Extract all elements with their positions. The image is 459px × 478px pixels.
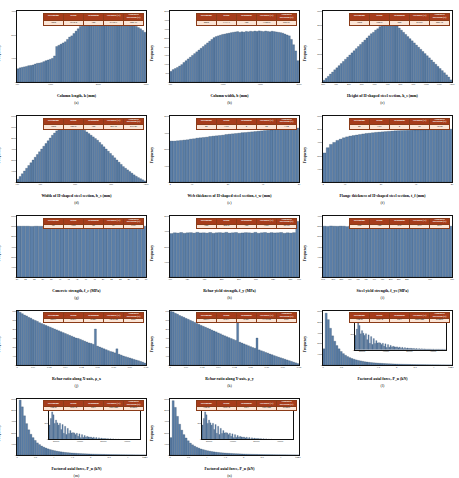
y-tick-label: 1000: [11, 265, 16, 268]
table-header-cell: Mean: [370, 119, 390, 124]
x-tick-label: 48: [136, 278, 139, 281]
table-header-cell: Variance (V): [410, 219, 430, 224]
table-value-cell: 916: [410, 225, 430, 228]
x-tick-label: 0: [16, 366, 17, 369]
x-tick-label: 0.02: [200, 366, 204, 369]
table-value-cell: 4: [390, 125, 410, 129]
histogram-panel-b: FrequencyMaximumMeanMinimumVariance (V)S…: [153, 0, 306, 105]
table-value-row: 5030.020275.23: [44, 225, 143, 228]
x-tick-label: 50: [145, 278, 148, 281]
y-tick-label: 4000: [164, 409, 169, 412]
y-tick-label: 0: [321, 81, 322, 84]
table-value-cell: 4: [237, 125, 257, 129]
inset-histogram-bars: [355, 318, 446, 349]
table-header-cell: Maximum: [44, 313, 64, 318]
table-value-cell: 7987440: [257, 407, 277, 410]
inset-x-tick-label: 10000: [230, 440, 236, 443]
table-value-cell: 0.03: [237, 407, 257, 410]
table-header-cell: Standard deviation (S): [277, 313, 296, 318]
y-tick-label: 200: [165, 345, 169, 348]
x-tick-label: 1000: [424, 83, 429, 86]
table-header-cell: Maximum: [197, 401, 217, 406]
table-value-cell: 2744.8: [124, 407, 143, 410]
x-axis-label: Rebar ratio along X-axis, ρ_x: [0, 377, 153, 381]
table-header-cell: Maximum: [197, 313, 217, 318]
y-tick-label: 5000: [11, 225, 16, 228]
x-tick-label: 20: [380, 183, 383, 186]
table-header-cell: Standard deviation (S): [430, 14, 449, 20]
x-tick-label: 44: [119, 278, 122, 281]
x-tick-label: 20: [227, 183, 230, 186]
table-value-cell: 1373.7: [217, 21, 237, 26]
inset-histogram-bars: [202, 407, 293, 440]
y-tick-label: 200: [12, 345, 16, 348]
y-tick-label: 5000: [317, 310, 322, 313]
x-tick-label: 1000: [48, 83, 53, 86]
y-tick-label: 0: [168, 364, 169, 367]
y-tick-label: 500: [318, 265, 322, 268]
histogram-panel-h: FrequencyMaximumMeanMinimumVariance (V)S…: [153, 205, 306, 300]
table-value-cell: 600: [197, 225, 217, 228]
plot-area: MaximumMeanMinimumVariance (V)Standard d…: [16, 10, 147, 83]
axes-frame: MaximumMeanMinimumVariance (V)Standard d…: [169, 310, 300, 366]
x-tick-label: 340: [185, 278, 189, 281]
inset-x-tick-label: 10000: [383, 350, 389, 353]
y-tick-label: 0: [321, 364, 322, 367]
x-tick-label: 0.07: [128, 366, 132, 369]
table-value-cell: 0.001: [237, 319, 257, 322]
axis-exponent-label: ×10⁴: [142, 456, 146, 459]
table-value-cell: 235: [390, 225, 410, 228]
statistics-table: MaximumMeanMinimumVariance (V)Standard d…: [43, 218, 144, 230]
x-tick-label: 0.08: [297, 366, 301, 369]
x-tick-label: 1200: [144, 183, 149, 186]
table-value-cell: 0.001: [84, 319, 104, 322]
inset-x-tick-label: 30000: [124, 440, 130, 443]
axes-frame: MaximumMeanMinimumVariance (V)Standard d…: [169, 215, 300, 278]
plot-area: 200001000020000300000200400MaximumMeanMi…: [322, 310, 453, 366]
x-tick-label: 26: [42, 278, 45, 281]
x-tick-label: 2.5: [414, 366, 417, 369]
y-axis-label: Frequency: [150, 147, 154, 163]
inset-y-tick-label: 0: [353, 348, 354, 351]
inset-x-tick-label: 20000: [53, 440, 59, 443]
plot-area: 200001000020000300000200400MaximumMeanMi…: [169, 398, 300, 456]
y-tick-label: 2000: [11, 33, 16, 36]
table-header-cell: Maximum: [350, 14, 370, 20]
table-value-row: 384301993.40.0379874402744.8: [197, 407, 296, 410]
y-axis-label: Frequency: [0, 244, 1, 260]
table-header-cell: Variance (V): [257, 119, 277, 124]
x-tick-label: 500: [360, 83, 364, 86]
histogram-panel-j: FrequencyMaximumMeanMinimumVariance (V)S…: [0, 300, 153, 388]
x-tick-label: 500: [254, 278, 258, 281]
x-tick-label: 2000: [297, 83, 302, 86]
y-tick-label: 0: [15, 454, 16, 457]
x-tick-label: 30: [415, 183, 418, 186]
table-header-cell: Standard deviation (S): [430, 219, 449, 224]
table-value-row: 384301993.40.0359874402744.8: [350, 319, 449, 322]
table-header-cell: Standard deviation (S): [277, 401, 296, 406]
table-value-row: 30001812.2300531037500.16: [44, 21, 143, 26]
table-header-cell: Variance (V): [257, 219, 277, 224]
inset-y-tick-label: 0: [200, 438, 201, 441]
x-tick-label: 2000: [96, 83, 101, 86]
x-axis-label: Rebar yield strength, f_y (MPa): [153, 289, 306, 293]
table-value-cell: 3000: [44, 21, 64, 26]
table-header-cell: Standard deviation (S): [124, 313, 143, 318]
statistics-table: MaximumMeanMinimumVariance (V)Standard d…: [43, 400, 144, 411]
y-tick-label: 300: [165, 337, 169, 340]
x-axis-label: Width of H-shaped steel section, b_s (mm…: [0, 194, 153, 198]
table-header-cell: Standard deviation (S): [124, 119, 143, 124]
table-header-cell: Minimum: [237, 119, 257, 124]
x-tick-label: 1.5: [377, 366, 380, 369]
axes-frame: MaximumMeanMinimumVariance (V)Standard d…: [169, 115, 300, 183]
y-tick-label: 0: [168, 81, 169, 84]
panel-grid: FrequencyMaximumMeanMinimumVariance (V)S…: [0, 0, 459, 478]
table-value-cell: 18.6: [370, 125, 390, 129]
inset-x-tick-label: 20000: [206, 440, 212, 443]
table-value-cell: 5987440: [410, 319, 430, 322]
x-tick-label: 32: [67, 278, 70, 281]
table-value-cell: 0.03: [390, 319, 410, 322]
table-header-cell: Standard deviation (S): [124, 219, 143, 224]
axis-exponent-label: ×10⁴: [295, 456, 299, 459]
x-tick-label: 30: [59, 278, 62, 281]
